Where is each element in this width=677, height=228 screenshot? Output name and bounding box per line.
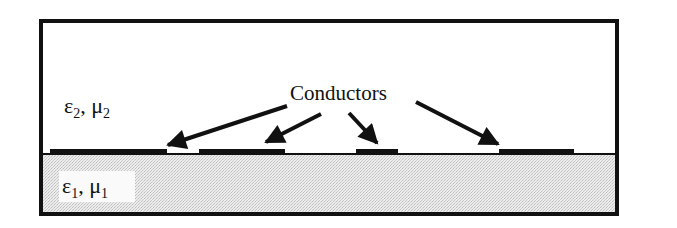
arrow-3 — [349, 113, 377, 143]
conductor-4 — [499, 149, 574, 154]
upper-region-label: ε2, μ2 — [64, 93, 110, 121]
lower-medium-region-right — [308, 154, 617, 214]
arrow-2 — [266, 114, 321, 142]
callout-label: Conductors — [290, 81, 387, 105]
conductor-3 — [356, 149, 398, 154]
conductor-2 — [199, 149, 285, 154]
arrow-4 — [416, 102, 498, 144]
diagram-canvas: Conductors ε2, μ2 ε1, μ1 — [0, 0, 677, 228]
conductor-1 — [50, 149, 167, 154]
callout-arrows — [168, 102, 498, 145]
